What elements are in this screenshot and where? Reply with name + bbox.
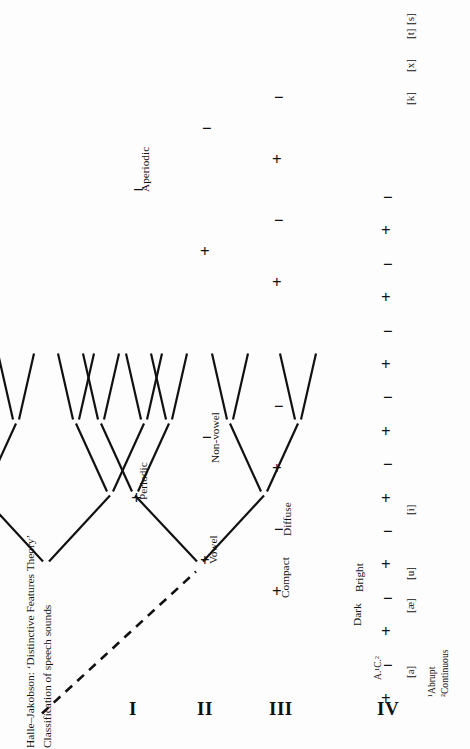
footnote-2: ²Continuous xyxy=(438,649,451,697)
leaf-label-t: [t] xyxy=(404,29,416,39)
leaf-node-11-sign: + xyxy=(381,355,391,375)
level-numeral-I: I xyxy=(129,698,137,720)
leaf-node-16-sign: − xyxy=(383,188,393,208)
branch-label-diffuse: Diffuse xyxy=(281,502,293,536)
leaf-node-3-sign: + xyxy=(381,622,391,642)
branch-label-dark: Dark xyxy=(351,603,363,626)
leaf-label-ae: [æ] xyxy=(404,598,416,613)
edge-dashed-root xyxy=(42,571,196,713)
leaf-node-4-sign: − xyxy=(383,589,393,609)
leaf-node-14-sign: − xyxy=(383,255,393,275)
node-III-4-sign: − xyxy=(274,397,284,417)
node-III-7-sign: + xyxy=(272,150,282,170)
leaf-node-6-sign: − xyxy=(383,522,393,542)
footnotes: ¹Abrupt ²Continuous xyxy=(425,649,451,697)
diagram-page: Halle–Jakobson: ‘Distinctive Features Th… xyxy=(0,0,470,749)
level-numeral-III: III xyxy=(269,698,293,720)
branch-label-bright: Bright xyxy=(353,563,365,592)
leaf-node-2-sign: − xyxy=(383,656,393,676)
leaf-node-12-sign: − xyxy=(383,322,393,342)
leaf-label-k: [k] xyxy=(404,92,416,105)
footnote-1: ¹Abrupt xyxy=(425,649,438,697)
leaf-node-7-sign: + xyxy=(381,489,391,509)
leaf-label-s: [s] xyxy=(404,13,416,25)
level-numeral-II: II xyxy=(197,698,213,720)
leaf-label-i: [i] xyxy=(404,505,416,515)
branch-label-abrupt-continuous: A.¹C.² xyxy=(372,656,383,680)
leaf-node-13-sign: + xyxy=(381,288,391,308)
node-III-6-sign: − xyxy=(274,211,284,231)
branch-label-nonvowel: Non-vowel xyxy=(209,412,221,463)
node-III-8-sign: − xyxy=(274,88,284,108)
node-III-5-sign: + xyxy=(272,273,282,293)
edge-I-II-a xyxy=(135,495,197,561)
branch-label-compact: Compact xyxy=(279,557,291,598)
tree-stage xyxy=(0,0,470,749)
node-III-3-sign: + xyxy=(272,459,282,479)
leaf-node-10-sign: − xyxy=(383,388,393,408)
level-numeral-IV: IV xyxy=(377,698,399,720)
node-aperiodic-minus-sign: − xyxy=(202,119,212,139)
leaf-node-15-sign: + xyxy=(381,221,391,241)
leaf-label-u: [u] xyxy=(404,567,416,580)
edge-ap-a xyxy=(0,495,43,561)
branch-label-vowel: Vowel xyxy=(207,535,219,564)
leaf-node-9-sign: + xyxy=(381,422,391,442)
node-aperiodic-plus-sign: + xyxy=(200,242,210,262)
branch-label-aperiodic: Aperiodic xyxy=(139,147,151,192)
leaf-label-a: [a] xyxy=(404,666,416,678)
leaf-node-5-sign: + xyxy=(381,555,391,575)
leaf-label-x: [x] xyxy=(404,59,416,72)
leaf-node-8-sign: − xyxy=(383,455,393,475)
edge-ap-b xyxy=(49,495,110,561)
branch-label-periodic: Periodic xyxy=(137,462,149,500)
tree-edges xyxy=(0,0,470,749)
